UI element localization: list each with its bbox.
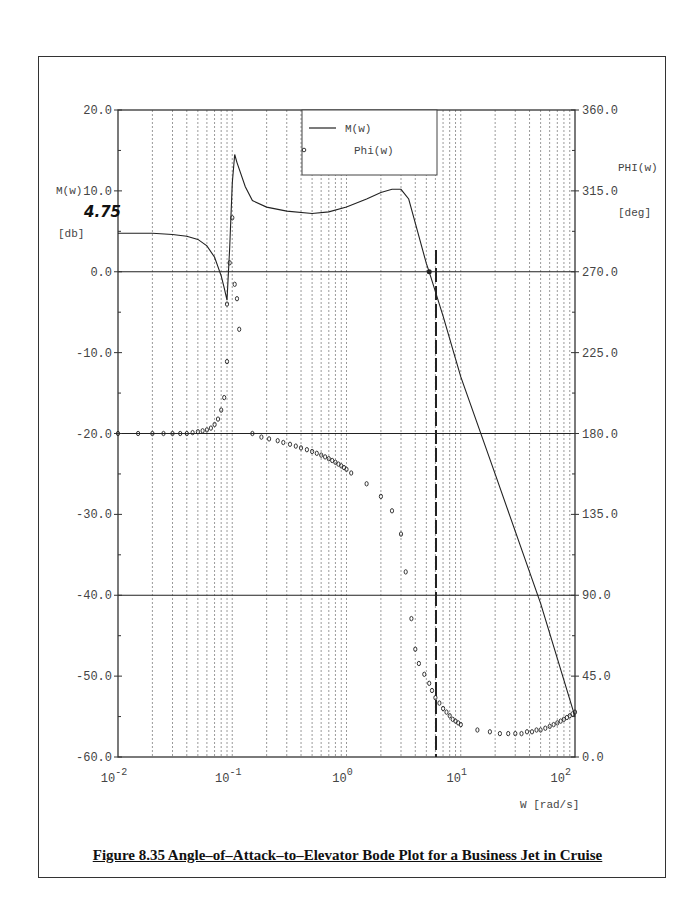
phase-point — [238, 327, 241, 331]
x-tick-label: 101 — [447, 767, 467, 786]
phase-point — [498, 731, 501, 735]
legend-magnitude-label: M(w) — [345, 123, 371, 135]
phase-point — [268, 437, 271, 441]
right-tick-label: 360.0 — [582, 104, 618, 118]
phase-point — [525, 730, 528, 734]
phase-point — [324, 455, 327, 459]
x-axis-label: W [rad/s] — [520, 799, 579, 811]
left-tick-label: 10.0 — [83, 185, 112, 199]
phase-point — [410, 616, 413, 620]
left-tick-label: -60.0 — [76, 751, 112, 765]
left-tick-label: -40.0 — [76, 589, 112, 603]
left-tick-label: 20.0 — [83, 104, 112, 118]
phase-point — [552, 722, 555, 726]
right-axis-label: PHI(w) — [618, 162, 658, 174]
phase-point — [476, 728, 479, 732]
phase-point — [428, 681, 431, 685]
right-tick-label: 315.0 — [582, 185, 618, 199]
right-axis-ticks: 360.0315.0270.0225.0180.0135.090.045.00.… — [571, 104, 618, 765]
legend-box — [302, 110, 437, 175]
legend: M(w) Phi(w) — [302, 110, 437, 175]
phase-point — [535, 728, 538, 732]
right-tick-label: 135.0 — [582, 508, 618, 522]
right-tick-label: 45.0 — [582, 670, 611, 684]
phase-point — [430, 688, 433, 692]
phase-point — [233, 282, 236, 286]
phase-point — [305, 448, 308, 452]
left-tick-label: -10.0 — [76, 347, 112, 361]
right-tick-label: 225.0 — [582, 347, 618, 361]
phase-point — [350, 471, 353, 475]
phase-point — [260, 435, 263, 439]
phase-point — [438, 701, 441, 705]
phase-point — [390, 509, 393, 513]
phase-point — [216, 417, 219, 421]
phase-point — [288, 442, 291, 446]
x-tick-label: 10-1 — [215, 767, 241, 786]
left-axis-unit: [db] — [58, 228, 84, 240]
legend-phase-label: Phi(w) — [354, 145, 394, 157]
figure-caption: Figure 8.35 Angle–of–Attack–to–Elevator … — [0, 847, 695, 864]
x-tick-label: 10-2 — [101, 767, 127, 786]
phase-point — [235, 297, 238, 301]
phase-point — [445, 710, 448, 714]
low-freq-gain-annotation: 4.75 — [83, 203, 121, 221]
x-tick-label: 100 — [332, 767, 352, 786]
phase-point — [191, 430, 194, 434]
phase-point — [404, 570, 407, 574]
left-tick-label: -30.0 — [76, 508, 112, 522]
right-axis-unit: [deg] — [618, 207, 651, 219]
phase-point — [282, 440, 285, 444]
phase-point — [209, 426, 212, 430]
right-tick-label: 0.0 — [582, 751, 604, 765]
phase-point — [201, 429, 204, 433]
phase-point — [365, 482, 368, 486]
phase-point — [315, 451, 318, 455]
left-tick-label: -50.0 — [76, 670, 112, 684]
phase-point — [507, 731, 510, 735]
left-tick-label: 0.0 — [90, 266, 112, 280]
phase-point — [276, 439, 279, 443]
phase-point — [417, 661, 420, 665]
crossover-point — [427, 269, 432, 274]
phase-point — [223, 395, 226, 399]
left-axis-label: M(w) — [56, 185, 82, 197]
phase-point — [488, 730, 491, 734]
right-tick-label: 90.0 — [582, 589, 611, 603]
phase-point — [331, 458, 334, 462]
right-tick-label: 270.0 — [582, 266, 618, 280]
phase-point — [530, 730, 533, 734]
bode-plot: 20.010.00.0-10.0-20.0-30.0-40.0-50.0-60.… — [0, 0, 695, 917]
phase-point — [559, 719, 562, 723]
x-axis-ticks: 10-210-1100101102 — [101, 767, 571, 786]
x-tick-label: 102 — [551, 767, 571, 786]
phase-point — [423, 672, 426, 676]
phase-point — [544, 726, 547, 730]
left-tick-label: -20.0 — [76, 428, 112, 442]
phase-point — [294, 444, 297, 448]
right-tick-label: 180.0 — [582, 428, 618, 442]
phase-point — [520, 731, 523, 735]
